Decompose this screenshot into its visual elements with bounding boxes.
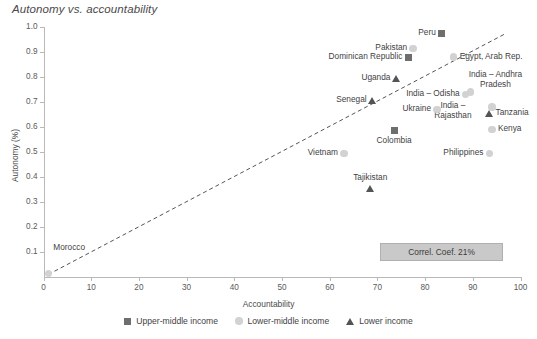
data-point-label: Kenya <box>498 124 522 134</box>
data-point[interactable] <box>409 45 417 53</box>
x-tick-mark <box>473 277 474 281</box>
x-tick-mark <box>234 277 235 281</box>
legend-label: Lower income <box>359 316 413 326</box>
x-tick-label: 60 <box>316 283 344 292</box>
data-point[interactable] <box>488 126 496 134</box>
correlation-box: Correl. Coef. 21% <box>380 243 504 261</box>
data-point[interactable] <box>391 127 398 134</box>
y-axis-title: Autonomy (%) <box>10 129 20 182</box>
x-axis-title: Accountability <box>0 299 537 309</box>
scatter-chart: Autonomy vs. accountability 010203040506… <box>0 0 537 339</box>
data-point-label: Colombia <box>354 136 434 146</box>
legend-label: Upper-middle income <box>136 316 218 326</box>
data-point-label: Uganda <box>0 73 390 83</box>
data-point-label: Vietnam <box>0 148 338 158</box>
x-tick-mark <box>44 277 45 281</box>
data-point[interactable] <box>366 185 374 192</box>
legend-square-icon <box>124 318 131 325</box>
x-tick-mark <box>91 277 92 281</box>
y-tick-mark <box>40 177 44 178</box>
y-tick-mark <box>40 202 44 203</box>
data-point-label: Tanzania <box>495 108 528 118</box>
y-tick-label: 0.3 <box>6 197 38 206</box>
data-point-label: Egypt, Arab Rep. <box>460 52 523 62</box>
x-tick-mark <box>425 277 426 281</box>
y-tick-label: 0.2 <box>6 222 38 231</box>
legend-item[interactable]: Lower income <box>346 316 413 326</box>
x-tick-label: 10 <box>77 283 105 292</box>
y-tick-mark <box>40 227 44 228</box>
x-tick-mark <box>330 277 331 281</box>
x-tick-mark <box>377 277 378 281</box>
chart-legend: Upper-middle incomeLower-middle incomeLo… <box>0 316 537 326</box>
legend-item[interactable]: Upper-middle income <box>124 316 218 326</box>
data-point[interactable] <box>433 106 441 114</box>
x-tick-label: 20 <box>125 283 153 292</box>
x-tick-label: 70 <box>363 283 391 292</box>
y-tick-label: 0.1 <box>6 247 38 256</box>
data-point-label: Peru <box>0 28 436 38</box>
plot-area: 0102030405060708090100 0.10.20.30.40.50.… <box>0 0 537 339</box>
data-point-label: Dominican Republic <box>0 52 402 62</box>
x-tick-mark <box>282 277 283 281</box>
x-tick-mark <box>521 277 522 281</box>
legend-label: Lower-middle income <box>248 316 330 326</box>
data-point-label: India – Andhra Pradesh <box>464 70 526 89</box>
x-tick-mark <box>139 277 140 281</box>
data-point[interactable] <box>340 150 348 158</box>
correlation-label: Correl. Coef. 21% <box>408 247 475 257</box>
data-point[interactable] <box>405 54 412 61</box>
x-tick-label: 30 <box>173 283 201 292</box>
x-tick-label: 80 <box>411 283 439 292</box>
legend-item[interactable]: Lower-middle income <box>235 316 329 326</box>
data-point-label: Morocco <box>53 243 85 253</box>
data-point[interactable] <box>438 30 445 37</box>
x-tick-label: 0 <box>30 283 58 292</box>
x-tick-label: 100 <box>507 283 535 292</box>
data-point-label: Tajikistan <box>330 173 410 183</box>
y-tick-mark <box>40 252 44 253</box>
x-tick-label: 40 <box>220 283 248 292</box>
x-tick-label: 50 <box>268 283 296 292</box>
data-point[interactable] <box>368 97 376 104</box>
data-point-label: Senegal <box>0 95 367 105</box>
x-tick-label: 90 <box>459 283 487 292</box>
legend-triangle-icon <box>346 318 354 325</box>
x-tick-mark <box>187 277 188 281</box>
data-point[interactable] <box>485 110 493 117</box>
legend-circle-icon <box>235 317 243 325</box>
data-point[interactable] <box>45 270 53 278</box>
data-point-label: Pakistan <box>0 43 407 53</box>
data-point-label: Ukraine <box>0 104 431 114</box>
data-point[interactable] <box>392 75 400 82</box>
y-tick-mark <box>40 127 44 128</box>
